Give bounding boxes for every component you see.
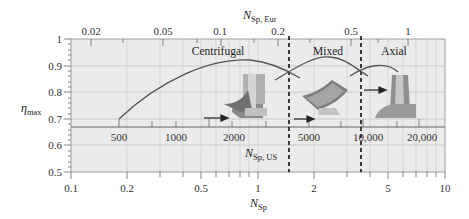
- y-axis-title: ηmax: [21, 101, 42, 117]
- svg-text:5: 5: [385, 182, 391, 194]
- svg-text:0.2: 0.2: [271, 25, 285, 37]
- svg-text:0.05: 0.05: [153, 25, 173, 37]
- x-tick-labels: 0.1 0.2 0.5 1 2 5 10: [64, 182, 451, 194]
- y-tick-labels: 1 0.9 0.8 0.7 0.6 0.5: [48, 33, 62, 178]
- svg-text:0.9: 0.9: [48, 60, 62, 72]
- svg-text:1000: 1000: [165, 131, 188, 143]
- svg-text:500: 500: [111, 131, 128, 143]
- svg-text:2: 2: [311, 182, 317, 194]
- svg-text:0.5: 0.5: [344, 25, 358, 37]
- svg-text:1: 1: [255, 182, 261, 194]
- top-axis-title: NSp, Eur: [242, 8, 277, 24]
- svg-text:0.5: 0.5: [194, 182, 208, 194]
- svg-text:0.2: 0.2: [120, 182, 134, 194]
- svg-text:0.8: 0.8: [48, 86, 62, 98]
- y-axis-ticks: [64, 39, 71, 172]
- svg-text:10,000: 10,000: [353, 131, 384, 143]
- svg-text:5000: 5000: [298, 131, 321, 143]
- svg-text:0.02: 0.02: [81, 25, 100, 37]
- svg-text:0.6: 0.6: [48, 139, 62, 151]
- x-axis-ticks: [71, 172, 445, 179]
- chart: Centrifugal Mixed Axial 1 0.9 0.8 0.7 0.…: [0, 0, 469, 219]
- svg-text:1: 1: [405, 25, 411, 37]
- svg-text:0.1: 0.1: [64, 182, 78, 194]
- x-axis-title: NSp: [249, 196, 267, 212]
- svg-text:10: 10: [440, 182, 452, 194]
- svg-text:2000: 2000: [223, 131, 246, 143]
- svg-text:1: 1: [57, 33, 63, 45]
- region-label-axial: Axial: [381, 45, 407, 57]
- region-label-mixed: Mixed: [313, 45, 343, 57]
- region-label-centrifugal: Centrifugal: [192, 45, 244, 58]
- svg-text:20,000: 20,000: [407, 131, 438, 143]
- svg-text:0.7: 0.7: [48, 113, 62, 125]
- svg-text:0.5: 0.5: [48, 166, 62, 178]
- svg-text:0.1: 0.1: [213, 25, 227, 37]
- top-tick-labels: 0.02 0.05 0.1 0.2 0.5 1: [81, 25, 410, 37]
